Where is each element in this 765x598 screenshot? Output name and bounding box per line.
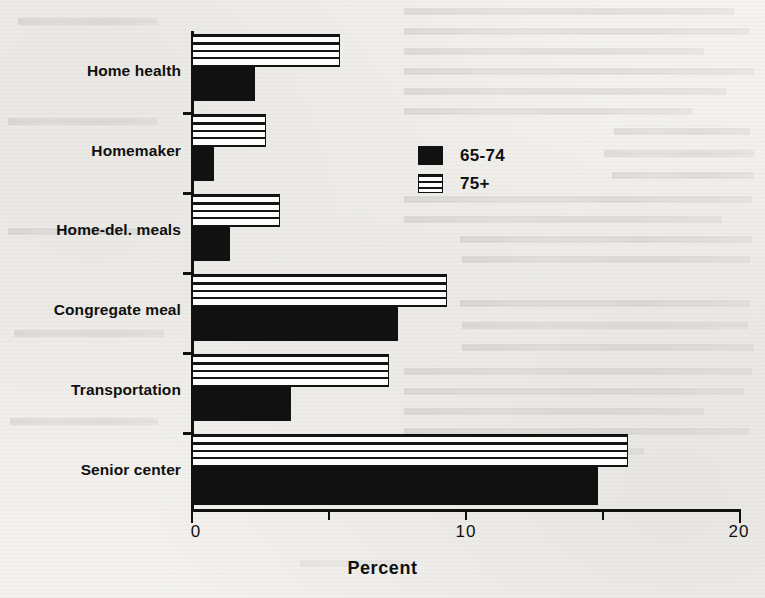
x-tick-label-0: 0 xyxy=(191,523,201,540)
y-label-senior-center: Senior center xyxy=(81,462,181,478)
x-tick-label-20: 20 xyxy=(729,523,750,540)
bar-chart: Home health Homemaker Home-del. meals Co… xyxy=(0,0,765,598)
y-tick xyxy=(183,272,192,275)
x-tick-15 xyxy=(602,511,604,520)
bar-home-health-65-74 xyxy=(192,67,255,101)
bar-congregate-meal-75plus xyxy=(192,274,447,307)
legend-label-65-74: 65-74 xyxy=(460,147,505,164)
bar-homemaker-75plus xyxy=(192,114,266,147)
legend-item-65-74: 65-74 xyxy=(418,142,598,168)
y-tick xyxy=(183,432,192,435)
y-label-transportation: Transportation xyxy=(71,382,181,398)
y-label-congregate-meal: Congregate meal xyxy=(54,302,181,318)
y-axis-labels: Home health Homemaker Home-del. meals Co… xyxy=(0,0,181,520)
plot-area xyxy=(192,33,740,507)
bar-home-del-meals-65-74 xyxy=(192,227,230,261)
bar-transportation-75plus xyxy=(192,354,389,387)
bar-senior-center-65-74 xyxy=(192,467,598,505)
x-tick-label-10: 10 xyxy=(456,523,477,540)
bar-congregate-meal-65-74 xyxy=(192,307,398,341)
bar-home-del-meals-75plus xyxy=(192,194,280,227)
legend-item-75plus: 75+ xyxy=(418,170,598,196)
legend: 65-74 75+ xyxy=(418,142,598,198)
legend-swatch-striped-icon xyxy=(418,174,443,193)
y-label-home-health: Home health xyxy=(87,63,181,79)
bar-senior-center-75plus xyxy=(192,434,628,467)
x-tick-5 xyxy=(328,511,330,520)
y-tick xyxy=(183,112,192,115)
bar-homemaker-65-74 xyxy=(192,147,214,181)
y-label-homemaker: Homemaker xyxy=(91,143,181,159)
legend-label-75plus: 75+ xyxy=(460,175,490,192)
bar-home-health-75plus xyxy=(192,34,340,67)
y-tick xyxy=(183,352,192,355)
y-label-home-del-meals: Home-del. meals xyxy=(56,222,181,238)
bar-transportation-65-74 xyxy=(192,387,291,421)
legend-swatch-solid-icon xyxy=(418,146,443,165)
y-tick xyxy=(183,192,192,195)
x-axis-title: Percent xyxy=(0,558,765,579)
x-tick-10 xyxy=(465,511,467,520)
